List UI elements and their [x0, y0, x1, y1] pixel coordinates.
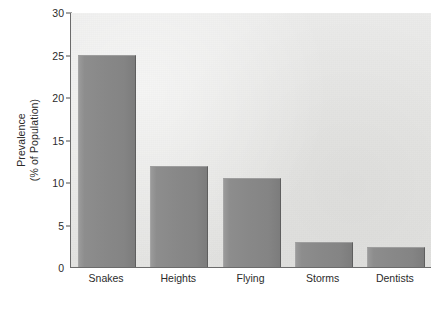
bar-dentists — [367, 247, 425, 267]
x-axis-category-labels: SnakesHeightsFlyingStormsDentists — [70, 272, 431, 296]
bars-layer — [71, 13, 431, 267]
x-axis-label-dentists: Dentists — [376, 272, 414, 284]
x-axis-label-snakes: Snakes — [89, 272, 124, 284]
bar-chart: Prevalence (% of Population) 05101520253… — [0, 0, 442, 311]
y-axis-tick-label: 25 — [42, 50, 64, 62]
bar-heights — [150, 166, 208, 267]
y-axis-tick-label: 20 — [42, 92, 64, 104]
y-axis-tick-labels: 051015202530 — [40, 0, 64, 311]
y-axis-tick-label: 15 — [42, 135, 64, 147]
bar-storms — [295, 242, 353, 268]
bar-flying — [223, 178, 281, 267]
y-axis-title-line-1: Prevalence — [15, 99, 28, 181]
y-axis-tick-label: 30 — [42, 7, 64, 19]
y-axis-tick-label: 10 — [42, 177, 64, 189]
x-axis-label-flying: Flying — [236, 272, 264, 284]
plot-area — [70, 13, 431, 268]
x-axis-label-heights: Heights — [160, 272, 196, 284]
bar-snakes — [78, 55, 136, 268]
y-axis-tick-label: 5 — [42, 220, 64, 232]
y-axis-tick-label: 0 — [42, 262, 64, 274]
x-axis-label-storms: Storms — [306, 272, 339, 284]
